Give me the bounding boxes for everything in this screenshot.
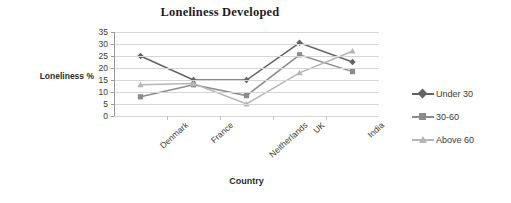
x-tick-label: Neitherlands [267, 120, 309, 159]
series-under-30 [137, 40, 355, 84]
y-tick-mark [111, 92, 114, 93]
x-axis-tick-labels: DenmarkFranceNeitherlandsUKIndia [114, 116, 379, 171]
data-point-marker [244, 93, 249, 98]
plot-area [114, 32, 379, 116]
legend-label: Above 60 [434, 135, 474, 145]
legend-item-under-30[interactable]: Under 30 [412, 82, 511, 105]
gridline [114, 104, 379, 105]
y-axis-title: Loneliness % [22, 71, 94, 81]
gridline [114, 56, 379, 57]
x-tick-label: India [365, 120, 385, 140]
y-tick-label: 15 [86, 76, 108, 85]
legend-item-30-60[interactable]: 30-60 [412, 105, 511, 128]
gridline [114, 68, 379, 69]
y-tick-label: 20 [86, 64, 108, 73]
y-tick-mark [111, 68, 114, 69]
y-axis-line [114, 32, 115, 116]
x-axis-title: Country [114, 176, 379, 186]
data-point-marker [138, 94, 143, 99]
data-point-marker [349, 59, 355, 65]
gridline [114, 44, 379, 45]
gridline [114, 32, 379, 33]
gridline [114, 92, 379, 93]
y-tick-label: 0 [86, 112, 108, 121]
x-tick-label: France [208, 120, 234, 145]
x-tick-label: UK [311, 120, 326, 135]
legend-swatch-triangle-icon [412, 134, 434, 145]
data-point-marker [350, 69, 355, 74]
y-tick-label: 5 [86, 100, 108, 109]
series-line [141, 55, 353, 97]
y-tick-label: 30 [86, 40, 108, 49]
y-tick-mark [111, 56, 114, 57]
y-tick-label: 25 [86, 52, 108, 61]
legend-swatch-square-icon [412, 111, 434, 122]
legend-label: Under 30 [434, 89, 473, 99]
y-tick-mark [111, 44, 114, 45]
legend-item-above-60[interactable]: Above 60 [412, 128, 511, 151]
y-tick-mark [111, 32, 114, 33]
data-point-marker [349, 48, 355, 54]
line-chart-figure: Loneliness Developed Loneliness % 353025… [0, 0, 511, 203]
legend-label: 30-60 [434, 112, 459, 122]
legend-swatch-diamond-icon [412, 88, 434, 99]
x-tick-label: Denmark [157, 120, 189, 151]
gridline [114, 80, 379, 81]
y-tick-label: 10 [86, 88, 108, 97]
y-tick-label: 35 [86, 28, 108, 37]
y-tick-mark [111, 104, 114, 105]
chart-title: Loneliness Developed [0, 5, 440, 20]
chart-legend: Under 3030-60Above 60 [412, 82, 511, 151]
y-tick-mark [111, 80, 114, 81]
y-axis-tick-labels: 35302520151050 [86, 32, 110, 116]
